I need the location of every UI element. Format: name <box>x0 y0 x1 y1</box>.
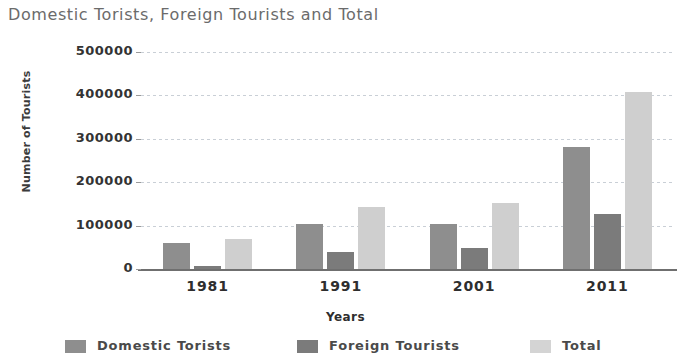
chart-legend: Domestic ToristsForeign TouristsTotal <box>0 338 691 358</box>
bar <box>225 239 252 269</box>
y-tick-label: 0 <box>53 260 133 275</box>
bar <box>163 243 190 269</box>
bar-group <box>430 52 519 269</box>
y-tick-label: 400000 <box>53 86 133 101</box>
bar-group <box>163 52 252 269</box>
x-axis-title: Years <box>0 310 691 324</box>
legend-label: Domestic Torists <box>97 338 231 353</box>
x-tick-label: 1991 <box>281 278 401 294</box>
bar <box>296 224 323 269</box>
x-tick-label: 1981 <box>148 278 268 294</box>
legend-swatch <box>530 340 551 353</box>
y-tick-label: 200000 <box>53 173 133 188</box>
bar <box>358 207 385 269</box>
bar-group <box>296 52 385 269</box>
y-tick-mark <box>136 95 141 96</box>
plot-area <box>141 52 674 269</box>
y-tick-label: 500000 <box>53 43 133 58</box>
bar-group <box>563 52 652 269</box>
legend-label: Foreign Tourists <box>329 338 460 353</box>
y-tick-mark <box>136 139 141 140</box>
y-tick-mark <box>136 52 141 53</box>
bar <box>625 92 652 269</box>
x-axis-line <box>138 269 677 271</box>
bar <box>594 214 621 269</box>
y-tick-mark <box>136 269 141 270</box>
x-tick-label: 2001 <box>414 278 534 294</box>
y-tick-mark <box>136 226 141 227</box>
y-axis-title: Number of Tourists <box>20 62 33 202</box>
legend-swatch <box>297 340 318 353</box>
bar <box>327 252 354 269</box>
bar <box>461 248 488 269</box>
bar-chart: Domestic Torists, Foreign Tourists and T… <box>0 0 691 360</box>
y-tick-label: 300000 <box>53 130 133 145</box>
chart-title: Domestic Torists, Foreign Tourists and T… <box>8 5 379 24</box>
y-tick-label: 100000 <box>53 217 133 232</box>
bar <box>430 224 457 269</box>
legend-label: Total <box>562 338 602 353</box>
bar <box>563 147 590 269</box>
y-tick-mark <box>136 182 141 183</box>
bar <box>492 203 519 269</box>
legend-swatch <box>65 340 86 353</box>
x-tick-label: 2011 <box>547 278 667 294</box>
